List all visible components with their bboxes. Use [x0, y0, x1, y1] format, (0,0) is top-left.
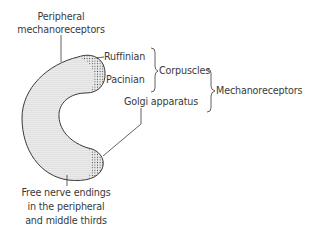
label-pacinian: Pacinian — [106, 75, 145, 85]
label-golgi: Golgi apparatus — [124, 97, 198, 107]
label-ruffinian: Ruffinian — [104, 52, 145, 62]
label-corpuscles: Corpuscles — [159, 66, 210, 76]
label-mechanoreceptors: Mechanoreceptors — [216, 86, 302, 96]
label-free-nerve-line2: in the peripheral — [27, 202, 104, 212]
label-free-nerve-line3: and middle thirds — [25, 216, 107, 226]
label-peripheral-line1: Peripheral — [37, 12, 84, 22]
brace-corpuscles — [151, 48, 158, 92]
leader-golgi — [103, 108, 141, 156]
dotted-region-bottom — [88, 146, 110, 182]
label-free-nerve-line1: Free nerve endings — [21, 188, 110, 198]
leader-ruffinian — [96, 57, 104, 58]
meniscus-innervation-diagram: Peripheral mechanoreceptors Ruffinian Pa… — [0, 0, 315, 232]
label-peripheral-line2: mechanoreceptors — [17, 25, 105, 35]
